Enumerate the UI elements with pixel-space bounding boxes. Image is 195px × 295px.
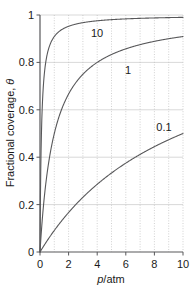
y-axis-title: Fractional coverage, θ: [4, 79, 16, 188]
curve-label-0.1: 0.1: [156, 121, 171, 133]
x-tick-label-4: 4: [94, 258, 100, 270]
y-tick-label-0.6: 0.6: [19, 104, 34, 116]
y-axis-title-symbol: θ: [4, 79, 16, 85]
x-tick-label-0: 0: [37, 258, 43, 270]
x-axis-title-symbol: p: [96, 273, 103, 285]
y-tick-label-0.4: 0.4: [19, 151, 34, 163]
y-tick-label-0.8: 0.8: [19, 56, 34, 68]
x-tick-label-2: 2: [66, 258, 72, 270]
curve-label-10: 10: [91, 27, 103, 39]
curve-label-1: 1: [125, 64, 131, 76]
x-tick-label-6: 6: [123, 258, 129, 270]
x-axis-title-rest: /atm: [103, 273, 124, 285]
langmuir-isotherm-figure: 1 0.8 0.6 0.4 0.2 0 0 2 4 6 8 10 p/atm F…: [0, 0, 195, 295]
x-axis-title: p/atm: [96, 273, 125, 285]
x-tick-label-10: 10: [177, 258, 189, 270]
y-axis-title-text: Fractional coverage,: [4, 85, 16, 188]
x-tick-label-8: 8: [151, 258, 157, 270]
y-tick-label-0: 0: [28, 246, 34, 258]
y-tick-label-0.2: 0.2: [19, 199, 34, 211]
chart-svg: 1 0.8 0.6 0.4 0.2 0 0 2 4 6 8 10 p/atm F…: [0, 0, 195, 295]
plot-area-background: [40, 15, 183, 252]
y-tick-label-1: 1: [28, 9, 34, 21]
